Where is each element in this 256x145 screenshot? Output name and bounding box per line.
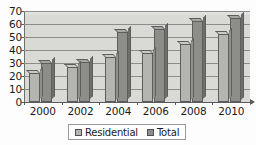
legend-swatch-icon [75,129,82,136]
bar-group [99,11,137,102]
bar-front-face [142,53,153,102]
y-axis-labels: 010203040506070 [0,0,22,145]
bar-group [212,11,250,102]
bar-front-face [67,67,78,102]
bar-residential-2006 [142,53,153,102]
bar-side-face [116,51,119,100]
bars-layer [24,11,250,102]
bar-group [24,11,62,102]
x-axis-tick-label: 2004 [101,105,135,117]
y-axis-tick-label: 20 [0,71,22,81]
bar-side-face [52,57,55,99]
bar-side-face [153,47,156,99]
legend-label: Residential [85,127,138,138]
bar-front-face [180,44,191,103]
bar-residential-2010 [218,34,229,102]
y-axis-tick-label: 30 [0,58,22,68]
bar-side-face [191,38,194,100]
y-axis-tick-label: 60 [0,19,22,29]
y-axis-tick-label: 0 [0,97,22,107]
bar-side-face [40,67,43,99]
bar-chart: 010203040506070 200020022004200620082010… [0,0,256,145]
bar-front-face [105,57,116,103]
x-axis-tick [137,102,138,105]
x-axis-tick [175,102,176,105]
bar-side-face [90,56,93,99]
bar-side-face [241,12,244,100]
bar-group [137,11,175,102]
x-axis-tick-label: 2000 [26,105,60,117]
y-axis-tick-label: 70 [0,6,22,16]
x-axis-tick-label: 2002 [64,105,98,117]
x-axis-tick [99,102,100,105]
x-axis-tick [24,102,25,105]
x-axis-tick [62,102,63,105]
y-axis-tick-label: 40 [0,45,22,55]
bar-front-face [29,73,40,102]
plot-area [24,11,250,102]
x-axis-arrow-icon [250,99,255,105]
x-axis-tick [212,102,213,105]
x-axis-line [24,102,253,103]
bar-residential-2000 [29,73,40,102]
legend-label: Total [157,127,179,138]
bar-side-face [203,15,206,99]
chart-legend: ResidentialTotal [68,124,186,140]
x-axis-labels: 200020022004200620082010 [24,105,250,119]
y-axis-tick-label: 50 [0,32,22,42]
bar-front-face [218,34,229,102]
x-axis-tick-label: 2010 [214,105,248,117]
bar-side-face [128,26,131,99]
legend-item-total: Total [147,127,179,138]
bar-side-face [165,23,168,99]
legend-swatch-icon [147,129,154,136]
bar-side-face [229,28,232,99]
bar-group [62,11,100,102]
y-axis-tick-label: 10 [0,84,22,94]
bar-residential-2008 [180,44,191,103]
bar-group [175,11,213,102]
x-axis-tick-label: 2008 [177,105,211,117]
legend-item-residential: Residential [75,127,138,138]
x-axis-tick-label: 2006 [139,105,173,117]
bar-residential-2002 [67,67,78,102]
bar-residential-2004 [105,57,116,103]
